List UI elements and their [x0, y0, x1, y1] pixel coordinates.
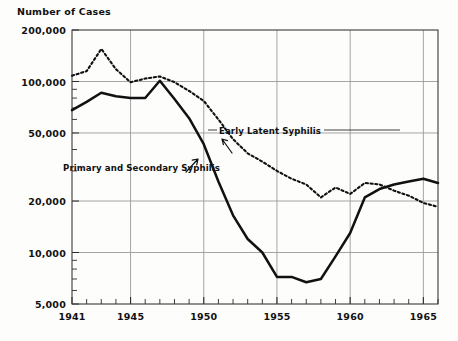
series-line-primary-and-secondary-syphilis	[72, 81, 438, 283]
x-axis-label-1941: 1941	[58, 311, 85, 322]
annotation-early-latent-syphilis: Early Latent Syphilis	[219, 126, 321, 136]
x-axis-label-1965: 1965	[410, 311, 437, 322]
x-axis-label-1960: 1960	[337, 311, 364, 322]
y-axis-label-200000: 200,000	[0, 25, 66, 36]
y-axis-label-10000: 10,000	[0, 247, 66, 258]
y-axis-label-100000: 100,000	[0, 76, 66, 87]
y-axis-label-20000: 20,000	[0, 196, 66, 207]
annotation-primary-and-secondary-syphilis: Primary and Secondary Syphilis	[63, 163, 220, 173]
annotation-arrow-early-latent	[222, 139, 232, 153]
x-axis-label-1950: 1950	[190, 311, 217, 322]
y-axis-label-50000: 50,000	[0, 128, 66, 139]
y-axis-label-5000: 5,000	[0, 299, 66, 310]
syphilis-cases-chart: Number of Cases 200,000100,00050,00020,0…	[0, 0, 458, 341]
x-axis-label-1945: 1945	[117, 311, 144, 322]
x-axis-label-1955: 1955	[263, 311, 290, 322]
